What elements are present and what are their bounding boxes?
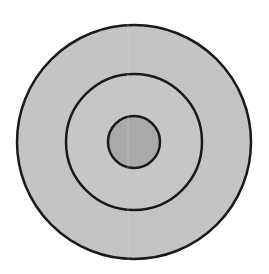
inner-ring bbox=[108, 116, 160, 168]
concentric-circles-diagram bbox=[0, 0, 269, 274]
